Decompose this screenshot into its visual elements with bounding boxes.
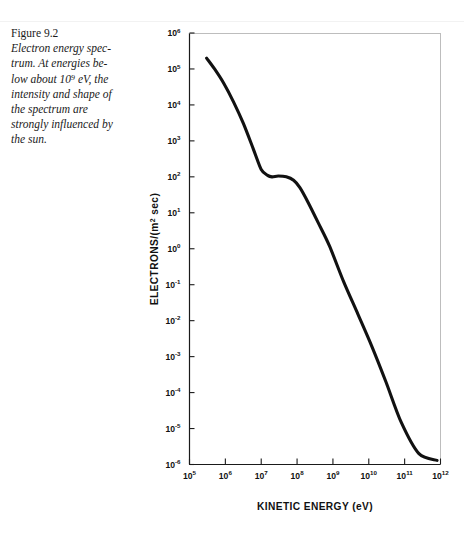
y-tick-label: 106 (167, 27, 181, 39)
y-tick-label: 105 (167, 63, 181, 75)
y-axis-ticks (190, 33, 195, 465)
spectrum-curve (207, 58, 437, 460)
y-tick-label: 10-2 (165, 314, 181, 326)
figure-page: Figure 9.2 Electron energy spec- trum. A… (0, 0, 464, 541)
y-tick-label: 104 (167, 99, 181, 111)
y-tick-label: 103 (167, 134, 181, 146)
x-axis-title: KINETIC ENERGY (eV) (257, 501, 373, 512)
y-axis-title: ELECTRONS/(m2 sec) (149, 193, 160, 305)
x-tick-label: 107 (255, 469, 269, 481)
x-tick-label: 1010 (361, 469, 378, 481)
y-tick-label: 101 (167, 206, 181, 218)
x-tick-label: 108 (291, 469, 305, 481)
x-axis-ticks (190, 459, 441, 465)
chart-svg: 10610510410310210110010-110-210-310-410-… (0, 0, 464, 541)
x-tick-label: 109 (326, 469, 340, 481)
x-tick-label: 1011 (397, 469, 414, 481)
y-tick-label: 10-5 (165, 422, 181, 434)
x-axis-tick-labels: 105106107108109101010111012 (183, 469, 449, 481)
x-tick-label: 106 (219, 469, 233, 481)
electron-energy-spectrum-chart: 10610510410310210110010-110-210-310-410-… (0, 0, 464, 541)
y-tick-label: 10-6 (165, 458, 181, 470)
y-tick-label: 10-1 (165, 278, 181, 290)
y-tick-label: 100 (167, 242, 181, 254)
x-tick-label: 1012 (432, 469, 449, 481)
y-tick-label: 102 (167, 170, 181, 182)
y-tick-label: 10-3 (165, 350, 181, 362)
x-tick-label: 105 (183, 469, 197, 481)
y-tick-label: 10-4 (165, 386, 181, 398)
y-axis-tick-labels: 10610510410310210110010-110-210-310-410-… (165, 27, 181, 470)
